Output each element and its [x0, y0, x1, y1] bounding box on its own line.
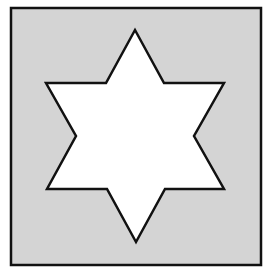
hexagram-figure — [0, 0, 268, 273]
diagram-canvas — [0, 0, 268, 273]
